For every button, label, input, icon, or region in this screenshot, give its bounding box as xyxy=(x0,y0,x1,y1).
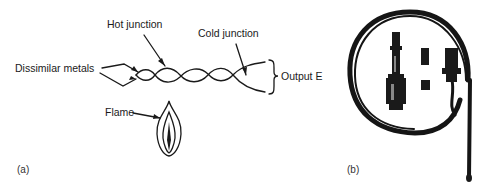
panel-b-label: (b) xyxy=(347,164,359,175)
thermocouple-figure: Hot junction Cold junction Dissimilar me… xyxy=(0,0,492,189)
thermocouple-photo xyxy=(0,0,492,189)
